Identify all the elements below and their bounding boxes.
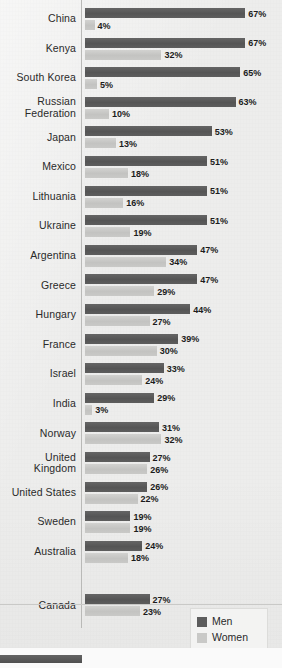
category-label-line: Mexico bbox=[0, 161, 76, 173]
category-label-line: Canada bbox=[0, 600, 76, 612]
bar-men bbox=[85, 304, 190, 314]
legend-swatch-women-icon bbox=[197, 633, 207, 643]
category-label: Canada bbox=[0, 600, 76, 612]
bar-men bbox=[85, 215, 207, 225]
bar-value-women: 16% bbox=[126, 198, 144, 208]
category-label-line: Australia bbox=[0, 546, 76, 558]
category-label-line: Kenya bbox=[0, 43, 76, 55]
bar-women bbox=[85, 434, 161, 444]
bar-value-men: 33% bbox=[167, 364, 185, 374]
category-label-line: China bbox=[0, 13, 76, 25]
bar-value-men: 63% bbox=[239, 97, 257, 107]
bar-value-men: 67% bbox=[248, 38, 266, 48]
bar-value-women: 13% bbox=[119, 139, 137, 149]
category-label-line: Sweden bbox=[0, 516, 76, 528]
bar-value-women: 24% bbox=[145, 376, 163, 386]
bar-value-women: 32% bbox=[164, 50, 182, 60]
category-label: South Korea bbox=[0, 72, 76, 84]
bar-women bbox=[85, 227, 130, 237]
bar-men bbox=[85, 126, 212, 136]
category-label: RussianFederation bbox=[0, 96, 76, 119]
category-label-line: Norway bbox=[0, 428, 76, 440]
legend-label-women: Women bbox=[212, 632, 248, 643]
bar-men bbox=[85, 393, 154, 403]
category-label-line: Israel bbox=[0, 368, 76, 380]
bar-men bbox=[85, 274, 197, 284]
category-label: India bbox=[0, 398, 76, 410]
bar-value-men: 51% bbox=[210, 157, 228, 167]
bar-value-women: 18% bbox=[131, 553, 149, 563]
bar-women bbox=[85, 168, 128, 178]
category-label: UnitedKingdom bbox=[0, 452, 76, 475]
bar-women bbox=[85, 606, 140, 616]
bar-men bbox=[85, 67, 240, 77]
bar-men bbox=[85, 334, 178, 344]
bar-women bbox=[85, 316, 150, 326]
bar-value-women: 23% bbox=[143, 607, 161, 617]
bar-women bbox=[85, 405, 92, 415]
bar-men bbox=[85, 156, 207, 166]
bar-men bbox=[85, 511, 130, 521]
bar-men bbox=[85, 97, 236, 107]
bar-men bbox=[85, 452, 150, 462]
bar-women bbox=[85, 523, 130, 533]
category-label-line: France bbox=[0, 339, 76, 351]
category-label-line: India bbox=[0, 398, 76, 410]
footer-rule-block bbox=[0, 655, 82, 663]
category-label-line: Greece bbox=[0, 280, 76, 292]
category-label: Greece bbox=[0, 280, 76, 292]
category-label-line: Kingdom bbox=[0, 463, 76, 475]
bar-women bbox=[85, 375, 142, 385]
bar-value-women: 10% bbox=[112, 109, 130, 119]
bar-value-women: 22% bbox=[141, 494, 159, 504]
category-axis-line bbox=[81, 0, 82, 628]
bar-men bbox=[85, 38, 245, 48]
bar-women bbox=[85, 553, 128, 563]
bar-value-women: 18% bbox=[131, 169, 149, 179]
bar-value-women: 4% bbox=[98, 21, 111, 31]
bar-value-men: 39% bbox=[181, 334, 199, 344]
bar-value-men: 29% bbox=[157, 393, 175, 403]
chart-page: China67%4%Kenya67%32%South Korea65%5%Rus… bbox=[0, 0, 282, 668]
bar-value-women: 32% bbox=[164, 435, 182, 445]
bar-value-women: 3% bbox=[95, 405, 108, 415]
category-label-line: South Korea bbox=[0, 72, 76, 84]
bar-value-men: 27% bbox=[153, 453, 171, 463]
bar-value-women: 19% bbox=[133, 524, 151, 534]
bar-women bbox=[85, 346, 157, 356]
bar-women bbox=[85, 464, 147, 474]
bar-value-men: 65% bbox=[243, 68, 261, 78]
bar-men bbox=[85, 541, 142, 551]
category-label-line: Ukraine bbox=[0, 220, 76, 232]
bar-women bbox=[85, 50, 161, 60]
bar-value-women: 34% bbox=[169, 257, 187, 267]
legend-item-men: Men bbox=[197, 616, 232, 627]
bar-value-men: 31% bbox=[162, 423, 180, 433]
bar-men bbox=[85, 594, 150, 604]
bar-women bbox=[85, 79, 97, 89]
bar-value-women: 27% bbox=[153, 317, 171, 327]
bar-value-women: 5% bbox=[100, 80, 113, 90]
bar-value-men: 67% bbox=[248, 9, 266, 19]
chart-legend: Men Women bbox=[190, 608, 268, 650]
legend-swatch-men-icon bbox=[197, 617, 207, 627]
bar-men bbox=[85, 422, 159, 432]
bar-value-men: 24% bbox=[145, 541, 163, 551]
bar-women bbox=[85, 138, 116, 148]
category-label: Kenya bbox=[0, 43, 76, 55]
bar-women bbox=[85, 109, 109, 119]
bar-value-men: 44% bbox=[193, 305, 211, 315]
category-label-line: Japan bbox=[0, 132, 76, 144]
category-label: Mexico bbox=[0, 161, 76, 173]
category-label: Australia bbox=[0, 546, 76, 558]
bar-value-women: 26% bbox=[150, 465, 168, 475]
bar-women bbox=[85, 494, 138, 504]
category-label: Norway bbox=[0, 428, 76, 440]
bar-women bbox=[85, 198, 123, 208]
bar-value-men: 51% bbox=[210, 216, 228, 226]
category-label: Hungary bbox=[0, 309, 76, 321]
category-label-line: Federation bbox=[0, 108, 76, 120]
category-label-line: Hungary bbox=[0, 309, 76, 321]
bar-men bbox=[85, 482, 147, 492]
bar-men bbox=[85, 8, 245, 18]
